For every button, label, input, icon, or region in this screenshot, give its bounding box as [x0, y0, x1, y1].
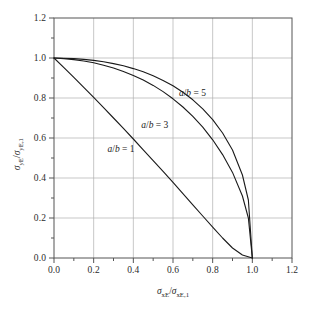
axis-ticks [49, 18, 292, 263]
y-tick-label: 0.0 [0, 253, 46, 263]
y-tick-label: 1.2 [0, 13, 46, 23]
x-axis-title: σxE/σxE,1 [157, 286, 189, 298]
data-curves [54, 58, 252, 258]
x-tick-label: 0.2 [88, 265, 100, 275]
x-tick-label: 1.0 [246, 265, 258, 275]
curve-label: a/b = 1 [108, 144, 135, 154]
chart-figure: 0.00.20.40.60.81.01.2 0.00.20.40.60.81.0… [0, 0, 311, 313]
y-tick-label: 0.8 [0, 93, 46, 103]
y-tick-label: 0.4 [0, 173, 46, 183]
gridlines [54, 18, 292, 258]
x-tick-label: 0.8 [207, 265, 219, 275]
plot-canvas [0, 0, 311, 313]
x-tick-label: 0.4 [127, 265, 139, 275]
x-tick-label: 0.0 [48, 265, 60, 275]
y-tick-label: 1.0 [0, 53, 46, 63]
x-tick-label: 0.6 [167, 265, 179, 275]
curve-a-b-1 [54, 58, 252, 258]
curve-label: a/b = 5 [179, 88, 206, 98]
y-axis-title: σyE/σyE,1 [12, 138, 24, 170]
x-tick-label: 1.2 [286, 265, 298, 275]
curve-label: a/b = 3 [141, 120, 168, 130]
y-tick-label: 0.2 [0, 213, 46, 223]
